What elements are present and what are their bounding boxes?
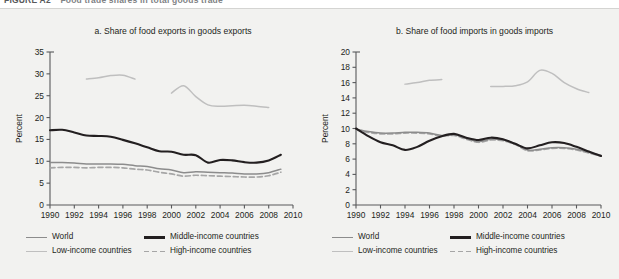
svg-text:2008: 2008 (567, 210, 586, 220)
svg-text:1990: 1990 (347, 210, 366, 220)
svg-text:16: 16 (341, 78, 351, 88)
svg-text:2010: 2010 (284, 210, 303, 220)
svg-text:1992: 1992 (371, 210, 390, 220)
svg-text:0: 0 (39, 200, 44, 210)
svg-text:2006: 2006 (235, 210, 254, 220)
legend-swatch-world (332, 233, 353, 242)
svg-text:8: 8 (345, 139, 350, 149)
legend-label-high-income: High-income countries (476, 247, 557, 255)
legend-item-world: World (332, 233, 450, 242)
svg-text:20: 20 (341, 47, 351, 57)
svg-text:1994: 1994 (396, 210, 415, 220)
svg-text:35: 35 (35, 47, 45, 57)
legend-label-world: World (358, 233, 379, 241)
svg-text:1998: 1998 (445, 210, 464, 220)
svg-text:30: 30 (35, 69, 45, 79)
panel-b-legend: World Middle-income countries Low-income… (310, 233, 619, 273)
figure-header-inner: FIGURE A2 Food trade shares in total goo… (4, 0, 223, 5)
svg-text:1998: 1998 (138, 210, 157, 220)
svg-text:2000: 2000 (469, 210, 488, 220)
svg-text:2002: 2002 (494, 210, 513, 220)
svg-text:6: 6 (345, 154, 350, 164)
chart-panel-a: a. Share of food exports in goods export… (0, 9, 310, 279)
legend-swatch-high-income (144, 247, 165, 256)
svg-text:25: 25 (35, 91, 45, 101)
panel-a-legend: World Middle-income countries Low-income… (0, 233, 310, 273)
panel-b-plot: 0246810121416182019901992199419961998200… (310, 9, 619, 224)
legend-label-world: World (52, 233, 73, 241)
figure-root: FIGURE A2 Food trade shares in total goo… (0, 0, 619, 279)
svg-text:5: 5 (39, 178, 44, 188)
svg-text:1992: 1992 (65, 210, 84, 220)
legend-swatch-low-income (26, 247, 47, 256)
svg-text:2: 2 (345, 185, 350, 195)
legend-label-low-income: Low-income countries (358, 247, 438, 255)
legend-swatch-middle-income (144, 233, 165, 242)
legend-item-middle-income: Middle-income countries (450, 233, 604, 242)
svg-text:2002: 2002 (186, 210, 205, 220)
legend-item-high-income: High-income countries (450, 247, 604, 256)
svg-text:10: 10 (341, 124, 351, 134)
svg-text:10: 10 (35, 156, 45, 166)
legend-item-middle-income: Middle-income countries (144, 233, 298, 242)
svg-text:2006: 2006 (543, 210, 562, 220)
legend-label-middle-income: Middle-income countries (476, 233, 565, 241)
legend-item-world: World (26, 233, 144, 242)
legend-item-low-income: Low-income countries (26, 247, 144, 256)
figure-title: Food trade shares in total goods trade (60, 0, 223, 5)
figure-header: FIGURE A2 Food trade shares in total goo… (0, 0, 619, 9)
legend-label-low-income: Low-income countries (52, 247, 132, 255)
figure-number: FIGURE A2 (4, 0, 51, 5)
svg-text:Percent: Percent (320, 113, 330, 143)
svg-text:1996: 1996 (114, 210, 133, 220)
svg-text:12: 12 (341, 108, 351, 118)
svg-text:2000: 2000 (162, 210, 181, 220)
svg-text:20: 20 (35, 113, 45, 123)
svg-text:4: 4 (345, 169, 350, 179)
svg-text:2004: 2004 (518, 210, 537, 220)
svg-text:1990: 1990 (41, 210, 60, 220)
legend-swatch-low-income (332, 247, 353, 256)
chart-panel-b: b. Share of food imports in goods import… (310, 9, 619, 279)
panel-a-plot: 0510152025303519901992199419961998200020… (0, 9, 310, 224)
svg-text:Percent: Percent (14, 113, 24, 143)
legend-label-middle-income: Middle-income countries (170, 233, 259, 241)
svg-text:2010: 2010 (592, 210, 611, 220)
svg-text:15: 15 (35, 134, 45, 144)
legend-swatch-world (26, 233, 47, 242)
legend-item-low-income: Low-income countries (332, 247, 450, 256)
svg-text:14: 14 (341, 93, 351, 103)
legend-label-high-income: High-income countries (170, 247, 251, 255)
legend-swatch-middle-income (450, 233, 471, 242)
svg-text:18: 18 (341, 62, 351, 72)
svg-text:1994: 1994 (89, 210, 108, 220)
svg-text:2004: 2004 (211, 210, 230, 220)
svg-text:2008: 2008 (259, 210, 278, 220)
legend-item-high-income: High-income countries (144, 247, 298, 256)
svg-text:1996: 1996 (420, 210, 439, 220)
legend-swatch-high-income (450, 247, 471, 256)
svg-text:0: 0 (345, 200, 350, 210)
